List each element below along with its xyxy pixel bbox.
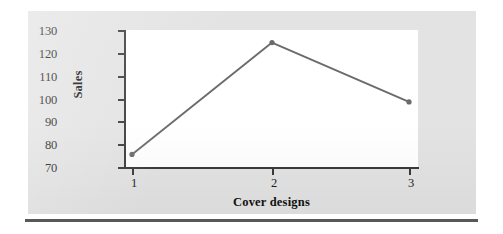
data-point-marker <box>269 40 274 45</box>
data-series-layer <box>28 11 476 214</box>
data-point-marker <box>129 152 134 157</box>
data-point-marker <box>406 99 411 104</box>
page-bottom-rule <box>25 219 478 222</box>
sales-line <box>132 43 409 155</box>
chart-figure-panel: 130 120 110 100 90 80 70 1 2 3 Sales Cov… <box>28 11 476 214</box>
sales-markers <box>129 40 411 157</box>
